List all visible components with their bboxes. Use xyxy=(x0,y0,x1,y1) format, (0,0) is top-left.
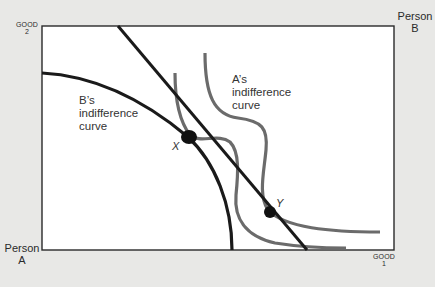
b-curve-label: B’s indifference curve xyxy=(79,94,138,134)
a-curve-label-line2: indifference xyxy=(232,86,291,99)
person-a-origin-label: Person A xyxy=(2,243,42,266)
y-axis-label-line1: GOOD xyxy=(13,21,41,28)
person-a-line1: Person xyxy=(2,243,42,255)
person-a-line2: A xyxy=(2,255,42,267)
y-axis-label: GOOD 2 xyxy=(13,21,41,36)
point-x-dot xyxy=(181,130,197,144)
a-curve-label-line3: curve xyxy=(232,99,291,112)
b-curve-label-line1: B’s xyxy=(79,94,138,107)
cropped-caption-remnant xyxy=(30,281,230,287)
y-axis-label-line2: 2 xyxy=(13,28,41,35)
x-axis-label: GOOD 1 xyxy=(370,253,398,268)
point-x-label: X xyxy=(172,140,179,152)
a-curve-label: A’s indifference curve xyxy=(232,73,291,113)
edgeworth-box-diagram xyxy=(0,0,435,287)
b-curve-label-line2: indifference xyxy=(79,107,138,120)
point-y-dot xyxy=(264,206,276,218)
person-b-line2: B xyxy=(394,23,435,35)
x-axis-label-line2: 1 xyxy=(370,260,398,267)
point-y-label: Y xyxy=(276,197,283,209)
person-b-line1: Person xyxy=(394,11,435,23)
a-curve-label-line1: A’s xyxy=(232,73,291,86)
person-b-origin-label: Person B xyxy=(394,11,435,34)
x-axis-label-line1: GOOD xyxy=(370,253,398,260)
b-curve-label-line3: curve xyxy=(79,120,138,133)
